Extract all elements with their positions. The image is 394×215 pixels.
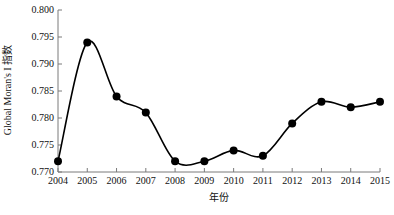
y-axis-tick-label: 0.790 — [32, 59, 55, 69]
line-chart-svg — [58, 10, 380, 172]
data-point-marker — [83, 38, 91, 46]
y-axis-tick-label: 0.785 — [32, 86, 55, 96]
data-point-marker — [171, 157, 179, 165]
x-axis-title: 年份 — [58, 192, 380, 204]
x-axis-tick-label: 2013 — [311, 175, 331, 187]
x-axis-tick-label: 2014 — [341, 175, 361, 187]
y-axis-tick-label: 0.780 — [32, 113, 55, 123]
chart-container: Global Moran's I 指数 0.7700.7750.7800.785… — [0, 0, 394, 215]
data-point-marker — [317, 98, 325, 106]
data-point-marker — [288, 119, 296, 127]
y-axis-tick-label: 0.775 — [32, 140, 55, 150]
x-axis-tick-label: 2009 — [194, 175, 214, 187]
x-axis-tick-labels: 2004200520062007200820092010201120122013… — [58, 175, 380, 191]
y-axis-title-label: Global Moran's I 指数 — [3, 45, 13, 135]
x-axis-tick-label: 2012 — [282, 175, 302, 187]
x-axis-tick-label: 2011 — [253, 175, 273, 187]
y-axis-tick-label: 0.800 — [32, 5, 55, 15]
x-axis-tick-label: 2006 — [107, 175, 127, 187]
plot-area — [58, 10, 380, 172]
axis-lines — [58, 10, 380, 172]
data-point-marker — [113, 92, 121, 100]
x-axis-tick-label: 2007 — [136, 175, 156, 187]
data-point-marker — [54, 157, 62, 165]
data-point-marker — [259, 152, 267, 160]
y-axis-tick-labels: 0.7700.7750.7800.7850.7900.7950.800 — [14, 0, 56, 180]
data-point-marker — [347, 103, 355, 111]
data-markers — [54, 38, 384, 165]
x-axis-tick-label: 2008 — [165, 175, 185, 187]
x-axis-tick-label: 2010 — [224, 175, 244, 187]
x-axis-ticks — [58, 168, 380, 172]
data-point-marker — [230, 146, 238, 154]
x-axis-tick-label: 2004 — [48, 175, 68, 187]
x-axis-tick-label: 2005 — [77, 175, 97, 187]
data-line — [58, 41, 380, 165]
x-axis-tick-label: 2015 — [370, 175, 390, 187]
data-point-marker — [142, 109, 150, 117]
y-axis-tick-label: 0.795 — [32, 32, 55, 42]
data-point-marker — [200, 157, 208, 165]
data-point-marker — [376, 98, 384, 106]
